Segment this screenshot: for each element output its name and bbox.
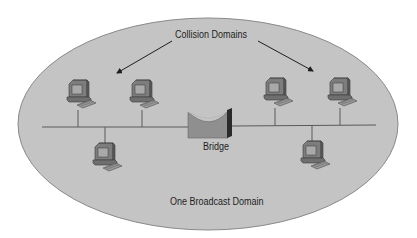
network-diagram: Collision Domains Bridge One Broadcast D…: [0, 0, 417, 238]
broadcast-domain-label: One Broadcast Domain: [170, 196, 264, 207]
collision-domains-label: Collision Domains: [175, 29, 247, 40]
bridge-label: Bridge: [203, 141, 229, 152]
